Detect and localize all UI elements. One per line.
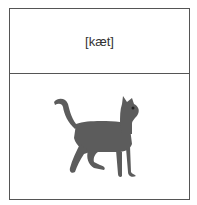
picture-section xyxy=(10,74,189,199)
phonetic-transcription: [kæt] xyxy=(85,34,114,49)
word-section: [kæt] xyxy=(10,9,189,74)
flashcard: [kæt] xyxy=(9,8,190,200)
cat-image-icon xyxy=(48,94,158,184)
